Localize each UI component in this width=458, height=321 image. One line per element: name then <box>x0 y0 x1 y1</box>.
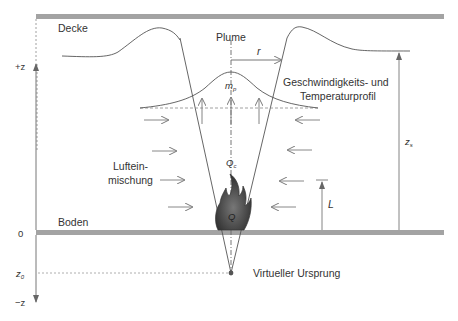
convective-heat-label: Qc <box>226 157 236 169</box>
ceiling-height-label: zs <box>404 136 413 148</box>
plume-boundary-left <box>180 38 231 273</box>
axis-negative-label: −z <box>15 297 26 308</box>
flame-height-label: L <box>328 198 334 210</box>
heat-release-label: Q <box>228 211 236 222</box>
mass-flow-label: mp <box>225 80 237 92</box>
profile-label-line2: Temperaturprofil <box>300 90 376 102</box>
plume-diagram: Decke Boden Plume r mp Geschwindigkeits-… <box>0 0 458 321</box>
ceiling-label: Decke <box>58 22 88 34</box>
axis-zero-label: 0 <box>18 228 23 239</box>
ceiling-surface <box>36 14 444 19</box>
axis-positive-label: +z <box>15 61 26 72</box>
entrainment-label-line2: mischung <box>108 174 153 186</box>
profile-label-line1: Geschwindigkeits- und <box>283 76 389 88</box>
plume-label: Plume <box>216 31 246 43</box>
plume-boundary-right <box>231 38 287 273</box>
entrainment-label-line1: Luftein- <box>113 160 149 172</box>
floor-label: Boden <box>58 216 89 228</box>
ceiling-jet-profile-right <box>287 27 410 51</box>
axis-origin-label: z0 <box>15 268 25 280</box>
virtual-origin-label: Virtueller Ursprung <box>253 267 341 279</box>
virtual-origin-point <box>229 271 234 276</box>
radius-label: r <box>257 45 261 57</box>
